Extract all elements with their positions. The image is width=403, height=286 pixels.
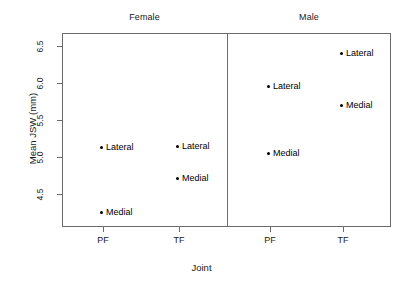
x-tick-label-female-tf: TF (159, 235, 199, 245)
x-tick-mark-female-tf (179, 227, 180, 232)
y-tick-mark-6-0 (57, 83, 62, 84)
data-label-female-tf-lateral: Lateral (182, 141, 210, 151)
data-point-male-tf-medial (340, 104, 343, 107)
data-point-male-pf-lateral (267, 85, 270, 88)
panel-title-male: Male (227, 12, 391, 23)
data-label-male-tf-medial: Medial (346, 100, 373, 110)
data-point-male-tf-lateral (340, 52, 343, 55)
x-tick-mark-female-pf (103, 227, 104, 232)
data-point-female-pf-lateral (100, 146, 103, 149)
data-label-female-pf-lateral: Lateral (106, 142, 134, 152)
y-tick-mark-4-5 (57, 194, 62, 195)
data-label-male-pf-lateral: Lateral (273, 81, 301, 91)
x-axis-title: Joint (0, 262, 403, 273)
x-tick-label-male-pf: PF (250, 235, 290, 245)
data-label-male-pf-medial: Medial (273, 148, 300, 158)
data-label-female-tf-medial: Medial (182, 173, 209, 183)
data-label-female-pf-medial: Medial (106, 207, 133, 217)
x-tick-mark-male-tf (343, 227, 344, 232)
y-tick-mark-6-5 (57, 46, 62, 47)
y-tick-mark-5-0 (57, 157, 62, 158)
data-label-male-tf-lateral: Lateral (346, 48, 374, 58)
data-point-female-tf-medial (176, 177, 179, 180)
y-axis-title: Mean JSW (mm) (27, 39, 38, 219)
panel-title-female: Female (62, 12, 227, 23)
y-tick-mark-5-5 (57, 120, 62, 121)
scatter-chart-figure: Female Male 6.5 6.0 5.5 5.0 4.5 PF TF PF… (0, 0, 403, 286)
x-tick-label-female-pf: PF (83, 235, 123, 245)
data-point-male-pf-medial (267, 152, 270, 155)
plot-area (62, 33, 391, 227)
data-point-female-pf-medial (100, 211, 103, 214)
data-point-female-tf-lateral (176, 145, 179, 148)
x-tick-mark-male-pf (270, 227, 271, 232)
panel-divider (227, 34, 228, 226)
x-tick-label-male-tf: TF (323, 235, 363, 245)
